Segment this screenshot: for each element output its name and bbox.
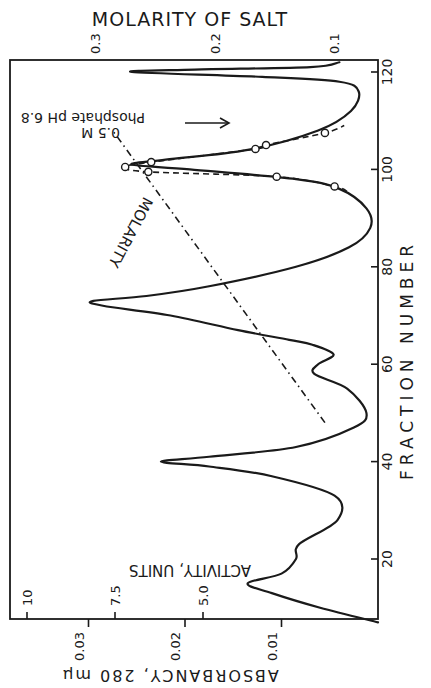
molarity-tick-label: 0.1 bbox=[327, 33, 342, 54]
x-axis-title: FRACTION NUMBER bbox=[397, 240, 417, 480]
activity-tick-label: 7.5 bbox=[108, 585, 123, 606]
molarity-line-label: MOLARITY bbox=[104, 194, 156, 271]
activity-point bbox=[122, 163, 129, 170]
activity-tick-label: 5.0 bbox=[196, 585, 211, 606]
arrow-icon bbox=[185, 118, 229, 128]
activity-point bbox=[273, 173, 280, 180]
fraction-tick-label: 100 bbox=[379, 156, 395, 183]
fraction-tick-label: 40 bbox=[379, 453, 395, 471]
activity-point bbox=[145, 168, 152, 175]
molarity-tick-label: 0.2 bbox=[208, 33, 223, 54]
activity-point bbox=[148, 158, 155, 165]
top-axis-title: MOLARITY OF SALT bbox=[92, 8, 288, 30]
activity-curve bbox=[125, 126, 347, 192]
fraction-tick-label: 80 bbox=[379, 258, 395, 276]
molarity-tick-label: 0.3 bbox=[88, 33, 103, 54]
y-axis-title: ABSORBANCY, 280 mμ bbox=[61, 666, 279, 685]
absorbancy-axis: 0.010.020.03 5.07.510 ABSORBANCY, 280 mμ bbox=[20, 585, 282, 685]
activity-point bbox=[252, 145, 259, 152]
activity-point bbox=[262, 141, 269, 148]
fraction-tick-label: 120 bbox=[379, 59, 395, 86]
chromatography-chart: MOLARITY OF SALT 0.30.20.1 2040608010012… bbox=[0, 0, 431, 688]
absorbancy-curve bbox=[90, 62, 378, 622]
top-axis: MOLARITY OF SALT 0.30.20.1 bbox=[88, 8, 342, 54]
activity-tick-label: 10 bbox=[20, 589, 35, 606]
fraction-tick-label: 20 bbox=[379, 550, 395, 568]
absorbancy-tick-label: 0.02 bbox=[168, 632, 183, 661]
plot-frame bbox=[10, 60, 378, 619]
activity-point bbox=[321, 129, 328, 136]
activity-label: ACTIVITY, UNITS bbox=[129, 561, 251, 579]
buffer-label-line2: Phosphate pH 6.8 bbox=[21, 110, 145, 126]
absorbancy-tick-label: 0.01 bbox=[265, 632, 280, 661]
fraction-tick-label: 60 bbox=[379, 355, 395, 373]
buffer-label-line1: 0.5 M bbox=[81, 125, 120, 141]
activity-point bbox=[331, 183, 338, 190]
absorbancy-tick-label: 0.03 bbox=[72, 632, 87, 661]
